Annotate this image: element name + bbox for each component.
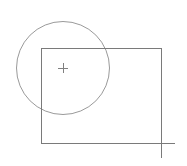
drawing-canvas (0, 0, 187, 166)
corner-extension-lines (161, 143, 175, 158)
circle-center-crosshair-icon (58, 63, 68, 73)
rectangle-shape[interactable] (42, 49, 162, 144)
